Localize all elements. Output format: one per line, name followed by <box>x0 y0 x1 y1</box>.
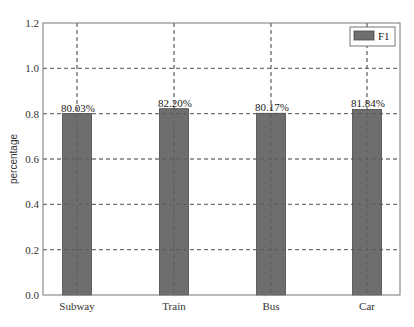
x-tick-label: Car <box>359 300 375 312</box>
y-tick-label: 1.2 <box>25 17 39 29</box>
x-tick-label: Subway <box>59 300 95 312</box>
x-tick-label: Bus <box>262 300 279 312</box>
legend: F1 <box>350 27 395 46</box>
x-axis-ticks: SubwayTrainBusCar <box>59 300 375 312</box>
bars <box>63 109 382 295</box>
y-tick-label: 0.6 <box>25 153 39 165</box>
x-tick-label: Train <box>162 300 186 312</box>
legend-label: F1 <box>378 30 390 42</box>
y-tick-label: 1.0 <box>25 62 39 74</box>
y-tick-label: 0.8 <box>25 108 39 120</box>
y-tick-label: 0.0 <box>25 289 39 301</box>
grid-overlay <box>43 23 400 295</box>
value-label: 80.17% <box>255 101 289 113</box>
y-tick-label: 0.4 <box>25 198 39 210</box>
value-label: 81.84% <box>351 97 385 109</box>
legend-swatch <box>354 31 374 40</box>
y-axis-ticks: 0.00.20.40.60.81.01.2 <box>25 17 39 301</box>
value-label: 80.03% <box>61 102 95 114</box>
value-labels: 80.03%82.20%80.17%81.84% <box>61 97 385 114</box>
y-tick-label: 0.2 <box>25 244 39 256</box>
y-axis-label: percentage <box>8 134 19 184</box>
value-label: 82.20% <box>158 97 192 109</box>
bar-chart: 0.00.20.40.60.81.01.2 SubwayTrainBusCar … <box>0 0 414 327</box>
